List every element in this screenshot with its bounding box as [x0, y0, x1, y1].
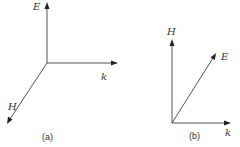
- arrowhead-icon: [211, 53, 217, 60]
- e-vector-b: [172, 58, 213, 123]
- label-k-a: k: [101, 71, 107, 82]
- label-k-b: k: [225, 127, 231, 138]
- label-e-b: E: [220, 51, 229, 62]
- diagram-a: E k H (a): [7, 1, 118, 142]
- caption-a: (a): [42, 132, 53, 142]
- label-h-a: H: [7, 101, 17, 112]
- arrowhead-icon: [170, 39, 175, 46]
- arrowhead-icon: [224, 121, 231, 126]
- arrowhead-icon: [45, 2, 50, 9]
- diagram-b: H E k (b): [166, 26, 231, 141]
- caption-b: (b): [189, 131, 200, 141]
- vector-diagram-canvas: E k H (a) H E k (b): [0, 0, 240, 147]
- label-e-a: E: [32, 1, 41, 12]
- arrowhead-icon: [7, 117, 13, 125]
- arrowhead-icon: [111, 61, 118, 66]
- label-h-b: H: [166, 26, 176, 37]
